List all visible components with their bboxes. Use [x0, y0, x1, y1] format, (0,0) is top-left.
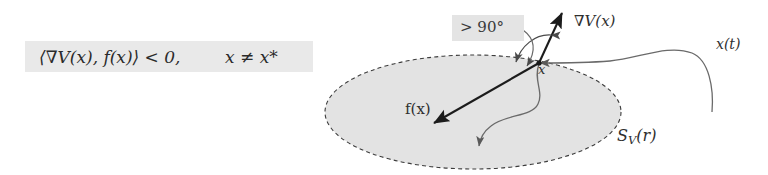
sublevel-set-ellipse: [325, 55, 621, 169]
trajectory-label: x(t): [716, 36, 740, 52]
figure-root: ⟨∇V(x), f(x)⟩ < 0, x ≠ x*: [0, 0, 768, 175]
sublevel-set-label-arg: (r): [636, 126, 656, 145]
sublevel-set-label: SV(r): [617, 126, 656, 147]
vector-field-label: f(x): [405, 100, 431, 118]
point-x-label: x: [538, 62, 545, 77]
lyapunov-diagram: [0, 0, 768, 175]
gradient-label: ∇V(x): [574, 12, 615, 30]
angle-label: > 90°: [460, 18, 504, 36]
gradient-vector-arrow: [539, 13, 562, 63]
sublevel-set-label-base: S: [617, 126, 628, 145]
